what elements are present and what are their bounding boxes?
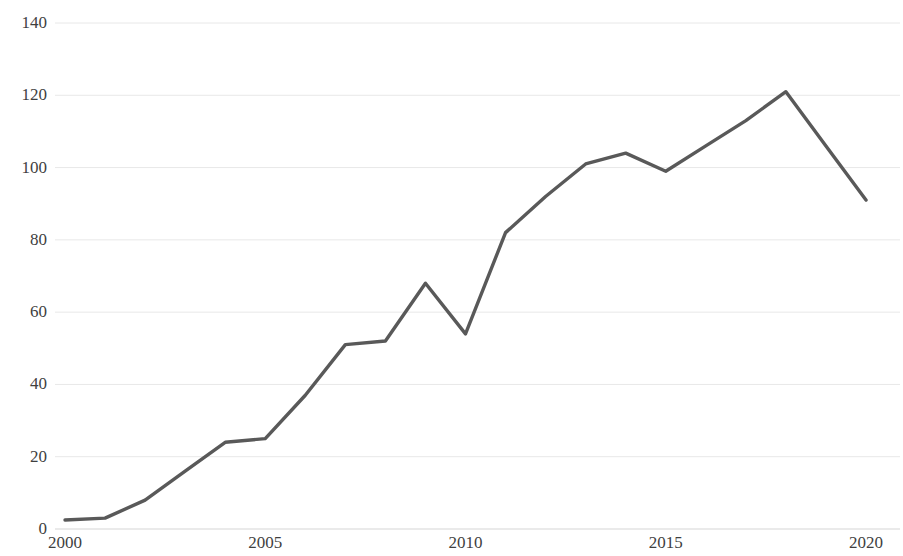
- series-line: [65, 92, 866, 520]
- x-tick-label-2005: 2005: [225, 534, 305, 551]
- x-tick-label-2010: 2010: [426, 534, 506, 551]
- y-tick-label-100: 100: [22, 159, 48, 176]
- data-series-group: [65, 92, 866, 520]
- y-tick-label-140: 140: [22, 14, 48, 31]
- y-tick-label-60: 60: [30, 303, 47, 320]
- gridlines-group: [55, 23, 900, 457]
- chart-canvas: [0, 0, 903, 556]
- y-tick-label-80: 80: [30, 231, 47, 248]
- y-tick-label-20: 20: [30, 448, 47, 465]
- x-tick-label-2000: 2000: [25, 534, 105, 551]
- y-tick-label-120: 120: [22, 86, 48, 103]
- line-chart: 020406080100120140 20002005201020152020: [0, 0, 903, 556]
- y-tick-label-40: 40: [30, 375, 47, 392]
- x-tick-label-2015: 2015: [626, 534, 706, 551]
- x-tick-label-2020: 2020: [826, 534, 903, 551]
